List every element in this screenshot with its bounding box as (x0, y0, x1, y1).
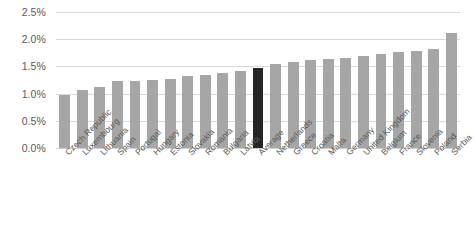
plot-area (56, 12, 460, 148)
y-axis-tick-label: 2.0% (22, 33, 46, 45)
y-axis-tick-label: 2.5% (22, 6, 46, 18)
bar (340, 58, 351, 148)
y-axis-tick-label: 1.0% (22, 88, 46, 100)
bar (59, 95, 70, 148)
y-axis-tick-label: 1.5% (22, 60, 46, 72)
y-axis: 0.0%0.5%1.0%1.5%2.0%2.5% (0, 0, 52, 160)
y-axis-tick-label: 0.0% (22, 142, 46, 154)
y-axis-tick-label: 0.5% (22, 115, 46, 127)
x-axis: Czech RepublicLuxembourgLithuaniaSpainPo… (56, 150, 460, 226)
bars-layer (56, 12, 460, 148)
